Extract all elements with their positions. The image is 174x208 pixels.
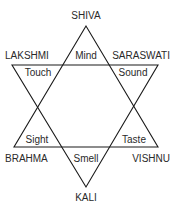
point-label-upper-left: Touch	[25, 67, 52, 78]
downward-triangle	[12, 65, 158, 187]
vertex-label-upper-left: LAKSHMI	[5, 50, 49, 61]
point-label-lower-left: Sight	[26, 134, 49, 145]
point-label-top: Mind	[75, 50, 97, 61]
vertex-label-lower-right: VISHNU	[132, 153, 170, 164]
upward-triangle	[14, 26, 158, 147]
vertex-label-upper-right: SARASWATI	[112, 50, 170, 61]
vertex-label-lower-left: BRAHMA	[5, 153, 48, 164]
vertex-label-bottom: KALI	[75, 192, 97, 203]
point-label-bottom: Smell	[73, 153, 98, 164]
point-label-upper-right: Sound	[119, 67, 148, 78]
hexagram-diagram: SHIVA LAKSHMI SARASWATI BRAHMA VISHNU KA…	[0, 0, 174, 208]
point-label-lower-right: Taste	[122, 134, 146, 145]
vertex-label-top: SHIVA	[71, 10, 101, 21]
